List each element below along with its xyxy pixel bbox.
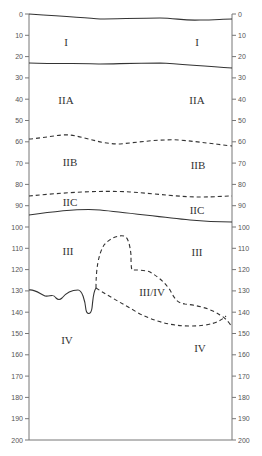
left-tick-label: 0 <box>19 11 23 18</box>
right-tick-label: 130 <box>238 287 250 294</box>
right-tick-label: 70 <box>238 160 246 167</box>
label-III-left: III <box>63 245 74 257</box>
label-IIC-left: IIC <box>63 196 78 208</box>
label-III-IV: III/IV <box>139 286 165 298</box>
right-tick-label: 200 <box>238 437 250 444</box>
axes <box>29 14 232 440</box>
left-tick-label: 190 <box>11 415 23 422</box>
left-tick-label: 90 <box>15 202 23 209</box>
left-tick-label: 10 <box>15 32 23 39</box>
left-tick-labels: 0102030405060708090100110120130140150160… <box>11 11 29 444</box>
left-tick-label: 150 <box>11 330 23 337</box>
left-tick-label: 110 <box>12 245 23 252</box>
left-tick-label: 70 <box>15 160 23 167</box>
right-tick-label: 140 <box>238 309 250 316</box>
surface-line <box>29 14 232 20</box>
right-tick-label: 90 <box>238 202 246 209</box>
label-I-right: I <box>195 36 199 48</box>
zone-labels: I I IIA IIA IIB IIB IIC IIC III III III/… <box>58 36 205 354</box>
boundary-IIA-IIB <box>29 135 232 146</box>
left-tick-label: 40 <box>15 96 23 103</box>
label-IIA-right: IIA <box>189 94 204 106</box>
left-tick-label: 160 <box>11 351 23 358</box>
right-tick-label: 40 <box>238 96 246 103</box>
boundary-III-IV-upper-dashed <box>96 236 232 327</box>
right-tick-label: 30 <box>238 74 246 81</box>
right-tick-label: 50 <box>238 117 246 124</box>
label-IIB-right: IIB <box>191 159 206 171</box>
label-IIA-left: IIA <box>58 94 73 106</box>
left-tick-label: 20 <box>15 53 23 60</box>
right-tick-label: 10 <box>238 32 246 39</box>
right-tick-label: 160 <box>238 351 250 358</box>
left-tick-label: 170 <box>11 373 23 380</box>
label-IV-left: IV <box>61 334 73 346</box>
left-tick-label: 60 <box>15 138 23 145</box>
left-tick-label: 120 <box>11 266 23 273</box>
right-tick-label: 190 <box>238 415 250 422</box>
right-tick-label: 170 <box>238 373 250 380</box>
right-tick-label: 110 <box>238 245 249 252</box>
right-tick-label: 60 <box>238 138 246 145</box>
right-tick-label: 180 <box>238 394 250 401</box>
left-tick-label: 50 <box>15 117 23 124</box>
left-tick-label: 200 <box>11 437 23 444</box>
label-I-left: I <box>64 36 68 48</box>
right-tick-label: 120 <box>238 266 250 273</box>
right-tick-label: 20 <box>238 53 246 60</box>
left-tick-label: 140 <box>11 309 23 316</box>
label-IIB-left: IIB <box>63 156 78 168</box>
right-tick-label: 80 <box>238 181 246 188</box>
boundary-I-IIA <box>29 63 232 68</box>
right-tick-labels: 0102030405060708090100110120130140150160… <box>232 11 250 444</box>
left-tick-label: 180 <box>11 394 23 401</box>
label-III-right: III <box>192 246 203 258</box>
right-tick-label: 150 <box>238 330 250 337</box>
right-tick-label: 0 <box>238 11 242 18</box>
label-IIC-right: IIC <box>190 204 205 216</box>
label-IV-right: IV <box>194 342 206 354</box>
left-tick-label: 80 <box>15 181 23 188</box>
left-tick-label: 130 <box>11 287 23 294</box>
soil-profile-diagram: 0102030405060708090100110120130140150160… <box>0 0 262 456</box>
boundary-IIB-IIC <box>29 191 232 197</box>
right-tick-label: 100 <box>238 224 250 231</box>
boundary-III-IV <box>29 288 96 314</box>
left-tick-label: 100 <box>11 224 23 231</box>
left-tick-label: 30 <box>15 74 23 81</box>
